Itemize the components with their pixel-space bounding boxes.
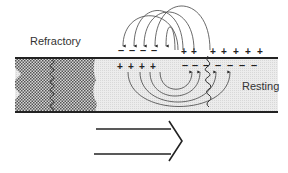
- svg-text:+: +: [117, 61, 123, 72]
- svg-text:–: –: [251, 59, 257, 71]
- charges-top-negative: ––––: [118, 44, 157, 56]
- propagation-direction-arrow-icon: [94, 121, 182, 161]
- svg-text:+: +: [150, 61, 156, 72]
- svg-text:–: –: [140, 44, 146, 56]
- svg-text:+: +: [245, 46, 251, 57]
- extracellular-current-loops: [123, 6, 210, 50]
- charges-top-positive: ++ +++++: [181, 46, 263, 57]
- label-resting: Resting: [242, 80, 279, 92]
- svg-text:–: –: [182, 59, 188, 71]
- svg-text:+: +: [210, 46, 216, 57]
- svg-text:+: +: [128, 61, 134, 72]
- svg-text:–: –: [129, 44, 135, 56]
- svg-text:+: +: [181, 46, 187, 57]
- refractory-region: [15, 59, 97, 112]
- svg-text:+: +: [221, 46, 227, 57]
- svg-text:–: –: [151, 44, 157, 56]
- svg-text:–: –: [215, 59, 221, 71]
- svg-text:–: –: [227, 59, 233, 71]
- svg-text:–: –: [118, 44, 124, 56]
- svg-text:–: –: [203, 59, 209, 71]
- svg-text:–: –: [239, 59, 245, 71]
- svg-text:+: +: [191, 46, 197, 57]
- svg-text:+: +: [257, 46, 263, 57]
- svg-text:+: +: [139, 61, 145, 72]
- label-refractory: Refractory: [30, 35, 81, 47]
- svg-text:+: +: [233, 46, 239, 57]
- svg-text:–: –: [192, 59, 198, 71]
